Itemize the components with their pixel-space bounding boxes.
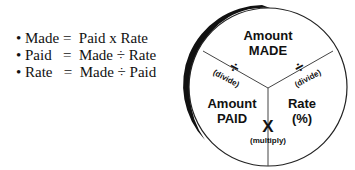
formula-wheel: Amount MADE Amount PAID Rate (%) ÷ (divi… xyxy=(0,0,355,170)
label-amount-made-2: MADE xyxy=(249,43,288,58)
label-rate-1: Rate xyxy=(288,96,316,111)
multiply-label: (multiply) xyxy=(250,136,286,145)
label-amount-paid-2: PAID xyxy=(217,111,247,126)
multiply-icon: X xyxy=(262,117,274,136)
label-rate-2: (%) xyxy=(292,111,312,126)
label-amount-made-1: Amount xyxy=(243,28,293,43)
label-amount-paid-1: Amount xyxy=(207,96,257,111)
